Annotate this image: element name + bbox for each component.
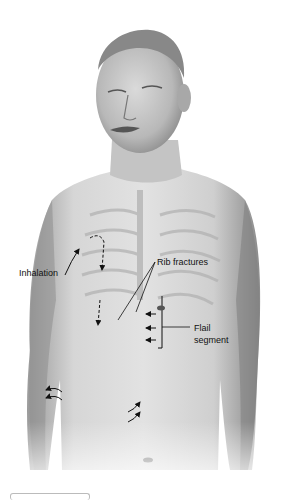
flail-label: Flail xyxy=(194,323,211,333)
inhalation-label: Inhalation xyxy=(19,268,58,278)
segment-label: segment xyxy=(194,335,229,345)
rib-fractures-label: Rib fractures xyxy=(157,257,208,267)
caption-box-edge xyxy=(10,493,90,500)
